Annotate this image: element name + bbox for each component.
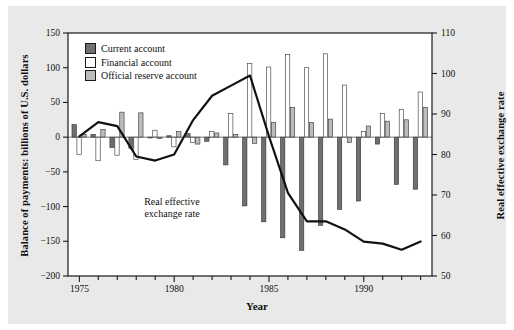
bar-official-reserve-account-1989 [347, 137, 351, 143]
y-ticklabel-right-110: 110 [441, 28, 455, 38]
y-ticklabel-left-150: 150 [46, 28, 60, 38]
bar-current-account-1977 [110, 137, 114, 147]
y-ticklabel-left-50: 50 [51, 97, 61, 107]
bar-current-account-1987 [299, 137, 303, 250]
bar-current-account-1989 [337, 137, 341, 209]
bar-current-account-1991 [375, 137, 379, 144]
x-ticklabel-1985: 1985 [259, 284, 278, 294]
chart-canvas [0, 0, 514, 330]
bar-official-reserve-account-1990 [366, 126, 370, 137]
bar-official-reserve-account-1993 [423, 107, 427, 137]
y-ticklabel-right-90: 90 [441, 109, 451, 119]
x-ticklabel-1990: 1990 [354, 284, 373, 294]
bar-official-reserve-account-1983 [234, 134, 238, 137]
bar-current-account-1983 [224, 137, 228, 165]
bar-current-account-1988 [318, 137, 322, 225]
bar-official-reserve-account-1992 [404, 120, 408, 137]
bar-current-account-1993 [413, 137, 417, 189]
bar-current-account-1984 [243, 137, 247, 206]
y-ticklabel-left-100: 100 [46, 63, 60, 73]
bar-financial-account-1992 [399, 109, 403, 137]
legend-swatch-official-reserve-account [85, 70, 96, 81]
y-ticklabel-right-80: 80 [441, 150, 451, 160]
chart-figure: Balance of payments: billions of U.S. do… [0, 0, 514, 330]
bar-current-account-1992 [394, 137, 398, 184]
bar-official-reserve-account-1980 [177, 132, 181, 138]
bar-financial-account-1976 [96, 137, 100, 161]
y-ticklabel-left--150: −150 [40, 236, 60, 246]
bar-financial-account-1989 [342, 85, 346, 137]
y-ticklabel-left--200: −200 [40, 271, 60, 281]
bar-official-reserve-account-1985 [271, 123, 275, 138]
bar-official-reserve-account-1984 [252, 137, 256, 143]
y-ticklabel-right-60: 60 [441, 231, 451, 241]
y-ticklabel-right-50: 50 [441, 271, 451, 281]
bar-official-reserve-account-1991 [385, 121, 389, 137]
bar-financial-account-1990 [361, 132, 365, 138]
y-axis-label-right: Real effective exchange rate [495, 46, 506, 266]
bar-current-account-1986 [281, 137, 285, 238]
legend-swatch-financial-account [85, 57, 96, 68]
bar-current-account-1982 [205, 137, 209, 141]
bar-financial-account-1991 [380, 114, 384, 138]
bar-financial-account-1985 [266, 67, 270, 137]
y-ticklabel-left--50: −50 [45, 167, 60, 177]
legend-item-official-reserve-account: Official reserve account [85, 69, 197, 83]
annotation-line-1: Real effective [112, 196, 232, 208]
bar-financial-account-1983 [229, 114, 233, 138]
bar-financial-account-1986 [285, 55, 289, 138]
bar-financial-account-1988 [323, 54, 327, 137]
bar-current-account-1975 [72, 125, 76, 137]
chart-legend: Current account Financial account Offici… [85, 42, 197, 83]
legend-item-current-account: Current account [85, 42, 197, 56]
bar-financial-account-1982 [210, 132, 214, 138]
y-axis-label-left: Balance of payments: billions of U.S. do… [19, 46, 30, 266]
bar-financial-account-1981 [191, 137, 195, 143]
y-ticklabel-left-0: 0 [55, 132, 60, 142]
x-axis-label: Year [0, 300, 514, 312]
bar-official-reserve-account-1987 [309, 123, 313, 138]
bar-current-account-1990 [356, 137, 360, 201]
y-ticklabel-right-70: 70 [441, 190, 451, 200]
bar-official-reserve-account-1982 [215, 133, 219, 137]
bar-official-reserve-account-1976 [101, 130, 105, 138]
bar-financial-account-1980 [172, 137, 176, 147]
legend-swatch-current-account [85, 43, 96, 54]
bar-official-reserve-account-1981 [196, 137, 200, 144]
line-series-annotation: Real effective exchange rate [112, 196, 232, 220]
bar-financial-account-1979 [153, 130, 157, 137]
legend-item-financial-account: Financial account [85, 56, 197, 70]
y-ticklabel-right-100: 100 [441, 69, 455, 79]
bar-financial-account-1977 [115, 137, 119, 155]
bar-official-reserve-account-1978 [139, 113, 143, 137]
bar-financial-account-1987 [304, 68, 308, 137]
x-ticklabel-1980: 1980 [165, 284, 184, 294]
x-ticklabel-1975: 1975 [70, 284, 89, 294]
legend-label-official-reserve-account: Official reserve account [101, 69, 197, 83]
legend-label-financial-account: Financial account [101, 56, 172, 70]
bar-current-account-1985 [262, 137, 266, 222]
bar-current-account-1976 [91, 134, 95, 137]
bar-official-reserve-account-1988 [328, 119, 332, 137]
annotation-line-2: exchange rate [112, 208, 232, 220]
bar-financial-account-1975 [77, 137, 81, 154]
bar-official-reserve-account-1986 [290, 107, 294, 137]
y-ticklabel-left--100: −100 [40, 202, 60, 212]
legend-label-current-account: Current account [101, 42, 165, 56]
bar-financial-account-1993 [418, 92, 422, 137]
